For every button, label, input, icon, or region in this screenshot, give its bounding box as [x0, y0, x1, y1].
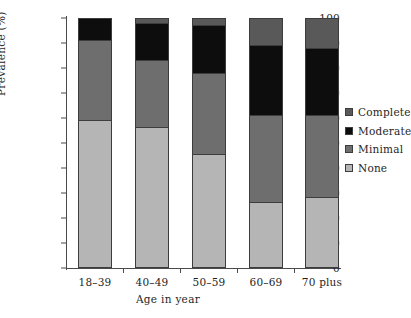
bar-group[interactable]	[78, 18, 112, 268]
stacked-bar[interactable]	[249, 18, 283, 268]
x-axis-title: Age in year	[0, 293, 406, 305]
bar-segment-none[interactable]	[193, 155, 225, 267]
bar-segment-moderate[interactable]	[193, 26, 225, 73]
bar-segment-minimal[interactable]	[79, 41, 111, 120]
bar-group[interactable]	[192, 18, 226, 268]
stacked-bar[interactable]	[78, 18, 112, 268]
x-axis-tick-label: 70 plus	[302, 276, 342, 288]
x-axis-tick-mark	[237, 268, 238, 273]
legend-item[interactable]: Minimal	[345, 143, 411, 155]
bar-segment-minimal[interactable]	[136, 61, 168, 128]
bar-segment-minimal[interactable]	[193, 74, 225, 156]
legend-item-label: Moderate	[358, 125, 411, 137]
x-axis-tick-mark	[180, 268, 181, 273]
x-axis-tick-mark	[123, 268, 124, 273]
legend: CompleteModerateMinimalNone	[345, 106, 411, 174]
bar-segment-moderate[interactable]	[136, 24, 168, 61]
bar-series-container	[66, 18, 338, 268]
stacked-bar[interactable]	[192, 18, 226, 268]
bar-segment-none[interactable]	[136, 128, 168, 267]
bar-segment-moderate[interactable]	[79, 19, 111, 41]
legend-item[interactable]: None	[345, 162, 411, 174]
bar-segment-moderate[interactable]	[306, 49, 338, 116]
legend-item-label: Minimal	[358, 143, 403, 155]
square-swatch-icon	[345, 164, 353, 172]
square-swatch-icon	[345, 127, 353, 135]
x-axis-tick-label: 18–39	[79, 276, 112, 288]
bar-segment-complete[interactable]	[250, 19, 282, 46]
bar-group[interactable]	[249, 18, 283, 268]
x-axis-tick-label: 40–49	[136, 276, 169, 288]
legend-item-label: Complete	[358, 106, 411, 118]
square-swatch-icon	[345, 145, 353, 153]
legend-item[interactable]: Complete	[345, 106, 411, 118]
legend-item-label: None	[358, 162, 387, 174]
bar-segment-minimal[interactable]	[250, 116, 282, 203]
stacked-bar[interactable]	[135, 18, 169, 268]
legend-item[interactable]: Moderate	[345, 125, 411, 137]
x-axis-tick-label: 60–69	[250, 276, 283, 288]
x-axis-title-text: Age in year	[136, 293, 200, 305]
bar-group[interactable]	[135, 18, 169, 268]
plot-area	[66, 18, 338, 268]
bar-segment-none[interactable]	[250, 203, 282, 267]
bar-segment-complete[interactable]	[306, 19, 338, 49]
x-axis-tick-mark	[294, 268, 295, 273]
bar-group[interactable]	[305, 18, 339, 268]
square-swatch-icon	[345, 108, 353, 116]
x-axis-tick-label: 50–59	[193, 276, 226, 288]
bar-segment-complete[interactable]	[193, 19, 225, 26]
bar-segment-minimal[interactable]	[306, 116, 338, 198]
bar-segment-none[interactable]	[79, 121, 111, 267]
bar-segment-moderate[interactable]	[250, 46, 282, 115]
stacked-bar[interactable]	[305, 18, 339, 268]
bar-segment-none[interactable]	[306, 198, 338, 267]
y-axis-title: Prevalence (%)	[0, 0, 7, 96]
